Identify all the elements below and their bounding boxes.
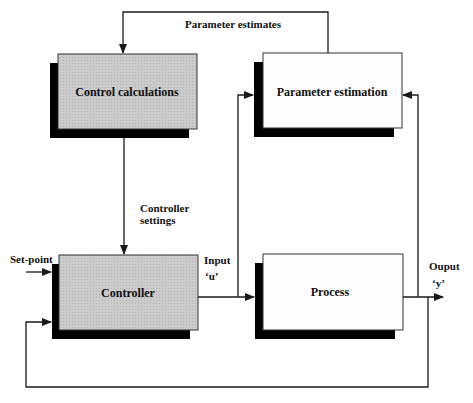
edge-output-to-estimation xyxy=(403,95,418,297)
block-label: Control calculations xyxy=(75,85,179,99)
label-input-u: ‘u’ xyxy=(205,270,218,282)
label-parameter-estimates: Parameter estimates xyxy=(185,18,282,30)
block-label: Process xyxy=(311,285,350,299)
label-input: Input xyxy=(204,254,231,266)
label-controller-settings-1: Controller xyxy=(140,202,189,214)
block-diagram: Control calculations Parameter estimatio… xyxy=(0,0,473,403)
block-parameter-estimation: Parameter estimation xyxy=(254,53,402,137)
label-output: Ouput xyxy=(429,260,460,272)
block-process: Process xyxy=(255,254,403,339)
block-controller: Controller xyxy=(52,255,198,339)
label-set-point: Set-point xyxy=(10,253,53,265)
edge-input-to-estimation xyxy=(238,95,253,297)
label-output-y: ‘y’ xyxy=(432,277,445,289)
block-control-calculations: Control calculations xyxy=(50,54,197,138)
block-label: Controller xyxy=(101,286,155,300)
label-controller-settings-2: settings xyxy=(140,214,176,226)
block-label: Parameter estimation xyxy=(277,85,388,99)
